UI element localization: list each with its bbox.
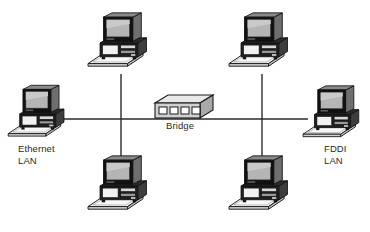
- label-fddi-lan: FDDI LAN: [324, 143, 347, 166]
- label-bridge: Bridge: [166, 120, 194, 132]
- bridge-device: [155, 95, 213, 118]
- label-ethernet-lan: Ethernet LAN: [18, 143, 55, 166]
- network-topology-diagram: [0, 0, 370, 232]
